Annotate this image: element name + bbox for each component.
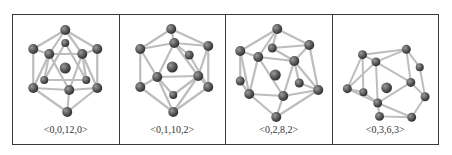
panel-distorted-cluster: <0,3,6,3> xyxy=(333,15,439,144)
panel-distorted-icosahedron-2: <0,2,8,2> xyxy=(226,15,333,144)
voronoi-cluster-figure: <0,0,12,0> xyxy=(12,14,439,145)
cluster-index-label: <0,3,6,3> xyxy=(333,124,439,135)
cluster-index-label: <0,2,8,2> xyxy=(226,124,332,135)
cluster-diagram-0-2-8-2 xyxy=(226,15,332,123)
panel-icosahedron: <0,0,12,0> xyxy=(13,15,120,144)
cluster-index-label: <0,1,10,2> xyxy=(120,124,226,135)
cluster-diagram-0-1-10-2 xyxy=(120,15,226,123)
cluster-diagram-0-3-6-3 xyxy=(333,15,439,123)
panel-distorted-icosahedron-1: <0,1,10,2> xyxy=(120,15,227,144)
cluster-index-label: <0,0,12,0> xyxy=(13,124,119,135)
cluster-diagram-0-0-12-0 xyxy=(13,15,119,123)
